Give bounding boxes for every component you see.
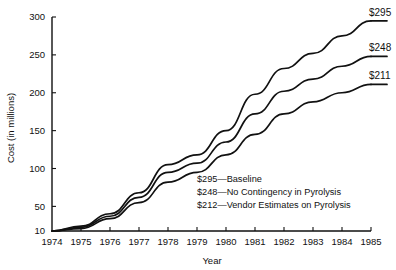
series-end-labels: $295$248$211 — [369, 7, 392, 82]
legend-item-no-contingency: $248—No Contingency in Pyrolysis — [197, 187, 341, 197]
y-tick-label: 150 — [29, 125, 45, 136]
x-tick-label: 1975 — [70, 236, 91, 247]
series-end-label: $248 — [369, 42, 392, 53]
y-axis-title: Cost (in millions) — [5, 93, 16, 163]
x-tick-label: 1985 — [360, 236, 381, 247]
legend-item-vendor-estimates: $212—Vendor Estimates on Pyrolysis — [197, 200, 351, 210]
x-tick-label: 1977 — [128, 236, 149, 247]
x-tick-label: 1981 — [244, 236, 265, 247]
x-tick-label: 1982 — [273, 236, 294, 247]
x-tick-label: 1983 — [302, 236, 323, 247]
x-tick-label: 1976 — [99, 236, 120, 247]
y-tick-label: 250 — [29, 49, 45, 60]
x-tick-label: 1974 — [41, 236, 62, 247]
x-tick-label: 1980 — [215, 236, 236, 247]
legend-item-baseline: $295—Baseline — [197, 174, 262, 184]
series-end-label: $295 — [369, 7, 392, 18]
line-chart: 1050100150200250300 19741975197619771978… — [0, 0, 396, 270]
y-axis-tick-labels: 1050100150200250300 — [29, 11, 45, 236]
y-tick-label: 200 — [29, 87, 45, 98]
y-tick-label: 50 — [34, 201, 45, 212]
y-tick-label: 300 — [29, 11, 45, 22]
y-tick-label: 10 — [34, 225, 45, 236]
y-tick-label: 100 — [29, 163, 45, 174]
x-tick-label: 1979 — [186, 236, 207, 247]
x-axis-title: Year — [202, 255, 221, 266]
chart-svg: 1050100150200250300 19741975197619771978… — [0, 0, 396, 270]
series-end-label: $211 — [369, 70, 391, 81]
legend-block: $295—Baseline $248—No Contingency in Pyr… — [197, 174, 351, 210]
x-axis-tick-labels: 1974197519761977197819791980198119821983… — [41, 236, 381, 247]
x-tick-label: 1984 — [331, 236, 352, 247]
x-tick-label: 1978 — [157, 236, 178, 247]
